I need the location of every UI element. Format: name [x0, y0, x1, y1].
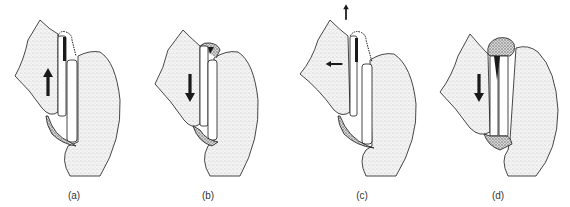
- hinge-ligament: [484, 134, 512, 150]
- panel-label-c: (c): [356, 190, 368, 201]
- left-tissue: [440, 34, 490, 134]
- panel-label-d: (d): [492, 190, 504, 201]
- blade-inner: [499, 56, 508, 136]
- panel-label-b: (b): [202, 190, 214, 201]
- panel-label-a: (a): [68, 190, 80, 201]
- panel-d: [440, 34, 558, 176]
- black-core: [63, 37, 66, 61]
- left-tissue: [155, 30, 200, 126]
- blade-inner: [67, 60, 77, 142]
- blade-outer: [200, 46, 208, 126]
- figure-canvas: [0, 0, 570, 207]
- panel-a: [15, 20, 120, 176]
- left-tissue: [300, 20, 350, 115]
- blade-inner: [362, 64, 372, 144]
- cap-mass: [488, 38, 515, 56]
- arrow-c-up-icon: [343, 4, 349, 19]
- panel-c: [300, 20, 416, 176]
- black-core: [355, 38, 358, 62]
- panel-b: [155, 30, 258, 176]
- left-tissue: [15, 20, 58, 114]
- right-tissue: [504, 47, 558, 176]
- blade-inner: [208, 60, 217, 140]
